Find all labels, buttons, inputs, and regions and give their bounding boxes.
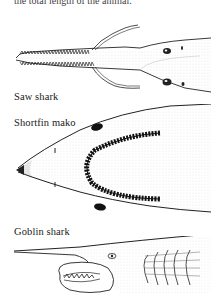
- saw-shark-illustration: [0, 20, 211, 95]
- body-text-fragment: the total length of the animal.: [14, 0, 132, 7]
- caption-goblin-shark: Goblin shark: [14, 226, 70, 238]
- goblin-shark-illustration: [0, 236, 211, 293]
- caption-shortfin-mako: Shortfin mako: [14, 117, 76, 129]
- caption-saw-shark: Saw shark: [14, 91, 58, 103]
